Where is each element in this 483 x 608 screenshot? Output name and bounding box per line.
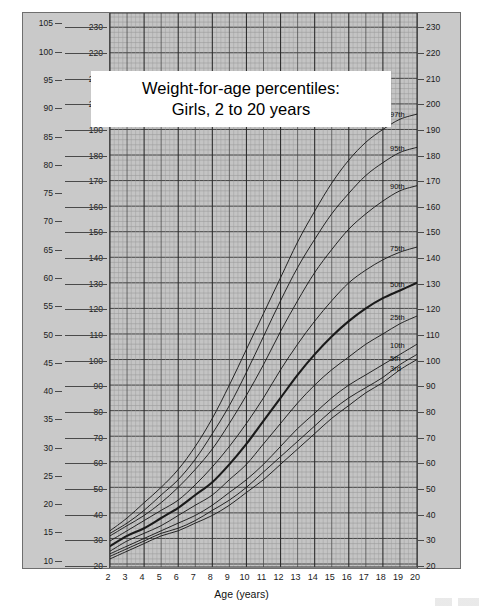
lb-tick-label-right: 50	[426, 485, 435, 494]
x-tick-label: 2	[105, 572, 110, 582]
curve-label-25th: 25th	[390, 313, 405, 322]
lb-axis-right: 2030405060708090100110120130140150160170…	[418, 13, 460, 568]
kg-tick-label: 60	[44, 274, 53, 283]
chart-title-line2: Girls, 2 to 20 years	[172, 99, 310, 120]
lb-tick-mark-left	[65, 515, 107, 516]
lb-tick-label-right: 150	[426, 228, 440, 237]
lb-tick-mark-right	[418, 566, 424, 567]
x-tick-label: 3	[123, 572, 128, 582]
x-tick-label: 6	[174, 572, 179, 582]
percentile-curve-75th	[110, 247, 417, 541]
percentile-curve-3rd	[110, 360, 417, 559]
lb-tick-label-right: 70	[426, 433, 435, 442]
lb-tick-label-right: 60	[426, 459, 435, 468]
lb-tick-mark-right	[418, 412, 424, 413]
lb-tick-label-right: 30	[426, 536, 435, 545]
kg-tick-label: 100	[39, 47, 53, 56]
lb-tick-mark-right	[418, 361, 424, 362]
lb-tick-mark-right	[418, 27, 424, 28]
lb-tick-mark-right	[418, 156, 424, 157]
x-tick-label: 16	[342, 572, 352, 582]
lb-tick-mark-right	[418, 540, 424, 541]
lb-tick-mark-left	[65, 27, 107, 28]
kg-tick-label: 50	[44, 330, 53, 339]
lb-tick-mark-left	[65, 489, 107, 490]
percentile-curve-5th	[110, 354, 417, 556]
lb-tick-mark-right	[418, 79, 424, 80]
lb-tick-label-right: 140	[426, 254, 440, 263]
x-tick-label: 5	[157, 572, 162, 582]
chart-title-line1: Weight-for-age percentiles:	[142, 78, 340, 99]
kg-tick-label: 55	[44, 302, 53, 311]
curve-label-50th: 50th	[390, 279, 405, 288]
x-tick-label: 10	[239, 572, 249, 582]
lb-tick-mark-right	[418, 335, 424, 336]
x-tick-label: 11	[257, 572, 266, 582]
lb-tick-mark-left	[65, 156, 107, 157]
lb-tick-label-right: 180	[426, 151, 440, 160]
lb-tick-mark-right	[418, 515, 424, 516]
lb-tick-mark-right	[418, 309, 424, 310]
lb-tick-label-right: 130	[426, 280, 440, 289]
lb-tick-mark-left	[65, 130, 107, 131]
lb-tick-mark-left	[65, 438, 107, 439]
lb-tick-label-right: 200	[426, 100, 440, 109]
watermark-logo	[435, 598, 479, 606]
curve-label-97th: 97th	[390, 110, 405, 119]
lb-tick-label-right: 190	[426, 126, 440, 135]
x-tick-label: 9	[225, 572, 230, 582]
lb-tick-label-right: 20	[426, 562, 435, 571]
lb-tick-label-right: 230	[426, 23, 440, 32]
curve-label-3rd: 3rd	[390, 364, 401, 373]
kg-tick-label: 25	[44, 472, 53, 481]
lb-tick-label-right: 110	[426, 331, 440, 340]
kg-tick-label: 65	[44, 245, 53, 254]
lb-tick-label-right: 160	[426, 203, 440, 212]
percentile-curve-25th	[110, 316, 417, 551]
curve-label-10th: 10th	[390, 341, 405, 350]
lb-tick-label-right: 40	[426, 510, 435, 519]
kg-tick-label: 80	[44, 161, 53, 170]
lb-tick-mark-left	[65, 335, 107, 336]
lb-tick-mark-right	[418, 438, 424, 439]
kg-tick-label: 90	[44, 104, 53, 113]
lb-tick-mark-right	[418, 258, 424, 259]
lb-tick-mark-left	[65, 258, 107, 259]
x-tick-label: 8	[208, 572, 213, 582]
x-tick-label: 15	[325, 572, 335, 582]
lb-tick-label-right: 100	[426, 357, 440, 366]
kg-tick-label: 15	[44, 528, 53, 537]
x-tick-label: 18	[376, 572, 386, 582]
kg-axis: 1015202530354045505560657075808590951001…	[23, 13, 55, 568]
lb-tick-mark-right	[418, 463, 424, 464]
curve-label-95th: 95th	[390, 143, 405, 152]
lb-tick-mark-right	[418, 489, 424, 490]
kg-tick-label: 70	[44, 217, 53, 226]
curve-label-5th: 5th	[390, 354, 400, 363]
lb-tick-mark-left	[65, 566, 107, 567]
chart-title-box: Weight-for-age percentiles: Girls, 2 to …	[91, 71, 391, 127]
x-tick-label: 7	[191, 572, 196, 582]
lb-tick-mark-right	[418, 181, 424, 182]
kg-tick-label: 45	[44, 359, 53, 368]
growth-chart-panel: 1015202530354045505560657075808590951001…	[22, 12, 461, 569]
lb-tick-mark-right	[418, 232, 424, 233]
lb-tick-mark-left	[65, 412, 107, 413]
lb-tick-mark-right	[418, 104, 424, 105]
lb-tick-mark-right	[418, 207, 424, 208]
lb-tick-mark-left	[65, 53, 107, 54]
kg-tick-label: 30	[44, 443, 53, 452]
lb-tick-label-right: 220	[426, 49, 440, 58]
lb-tick-mark-right	[418, 284, 424, 285]
lb-tick-label-right: 120	[426, 305, 440, 314]
percentile-curve-95th	[110, 147, 417, 533]
lb-tick-mark-left	[65, 181, 107, 182]
kg-tick-label: 10	[44, 557, 53, 566]
x-axis-title: Age (years)	[0, 588, 483, 600]
lb-tick-mark-right	[418, 386, 424, 387]
lb-tick-mark-left	[65, 361, 107, 362]
lb-tick-mark-left	[65, 207, 107, 208]
lb-tick-label-right: 90	[426, 382, 435, 391]
lb-tick-label-right: 170	[426, 177, 440, 186]
curve-label-75th: 75th	[390, 243, 405, 252]
